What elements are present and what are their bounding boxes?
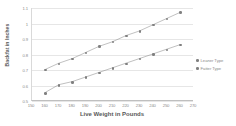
legend-label: Leaner Type bbox=[201, 58, 224, 63]
y-tick-label: 0.6 bbox=[22, 83, 28, 88]
chart-container: Backfat in Inches 0.50.60.70.80.911.1 15… bbox=[0, 0, 236, 126]
data-point-marker bbox=[179, 11, 182, 14]
series-lines bbox=[32, 8, 193, 100]
x-tick-label: 230 bbox=[136, 103, 143, 108]
legend-label: Fatter Type bbox=[201, 66, 222, 71]
data-point-marker bbox=[58, 84, 61, 87]
x-axis-title: Live Weight in Pounds bbox=[31, 111, 193, 117]
x-tick-label: 150 bbox=[28, 103, 35, 108]
gridline bbox=[32, 101, 193, 102]
data-point-marker bbox=[152, 53, 155, 56]
data-point-marker bbox=[71, 81, 74, 84]
data-point-marker bbox=[44, 92, 47, 95]
x-tick-label: 210 bbox=[109, 103, 116, 108]
x-tick-label: 180 bbox=[68, 103, 75, 108]
x-tick-label: 240 bbox=[149, 103, 156, 108]
legend-item[interactable]: Leaner Type bbox=[196, 58, 234, 63]
y-tick-label: 0.9 bbox=[22, 37, 28, 42]
y-tick-label: 0.8 bbox=[22, 52, 28, 57]
x-tick-label: 260 bbox=[176, 103, 183, 108]
data-point-marker bbox=[139, 30, 142, 33]
data-point-marker bbox=[44, 69, 47, 72]
plot-area bbox=[31, 8, 193, 101]
x-tick-label: 220 bbox=[122, 103, 129, 108]
x-axis-tick-labels: 150160170180190200210220230240250260270 bbox=[31, 103, 193, 111]
y-axis-tick-labels: 0.50.60.70.80.911.1 bbox=[0, 0, 31, 126]
legend-swatch-icon bbox=[196, 67, 199, 70]
data-point-marker bbox=[98, 45, 101, 48]
x-tick-label: 200 bbox=[95, 103, 102, 108]
y-tick-label: 1.1 bbox=[22, 6, 28, 11]
chart-legend: Leaner TypeFatter Type bbox=[196, 58, 234, 74]
x-tick-label: 170 bbox=[55, 103, 62, 108]
x-tick-label: 270 bbox=[190, 103, 197, 108]
x-tick-label: 160 bbox=[41, 103, 48, 108]
x-tick-label: 250 bbox=[163, 103, 170, 108]
legend-item[interactable]: Fatter Type bbox=[196, 66, 234, 71]
y-tick-label: 0.7 bbox=[22, 68, 28, 73]
x-tick-label: 190 bbox=[82, 103, 89, 108]
y-tick-label: 1 bbox=[26, 21, 28, 26]
data-point-marker bbox=[125, 63, 128, 66]
data-point-marker bbox=[125, 35, 128, 38]
legend-swatch-icon bbox=[196, 59, 199, 62]
